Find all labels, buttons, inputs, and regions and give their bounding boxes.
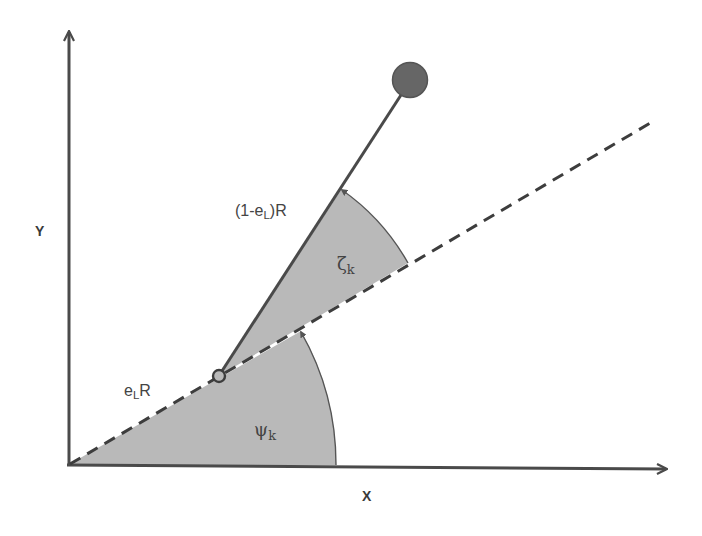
- hinge-offset-base: e: [124, 382, 133, 399]
- psi-symbol: ψ: [254, 419, 268, 440]
- hinge-offset-label: eLR: [124, 383, 151, 399]
- hinge-icon: [213, 370, 225, 382]
- x-axis-label: X: [362, 489, 371, 503]
- y-axis-label: Y: [35, 224, 44, 238]
- dashed-reference-line: [70, 122, 652, 464]
- link-length-suffix: )R: [270, 202, 287, 219]
- psi-subscript: k: [268, 428, 276, 443]
- zeta-angle-label: ζk: [337, 255, 355, 273]
- zeta-symbol: ζ: [337, 253, 347, 274]
- link-length-label: (1-eL)R: [235, 203, 287, 219]
- psi-angle-label: ψk: [254, 421, 276, 439]
- link-length-prefix: (1-e: [235, 202, 263, 219]
- ball-mass-icon: [393, 63, 428, 98]
- zeta-subscript: k: [347, 262, 355, 277]
- hinge-offset-suffix: R: [139, 382, 151, 399]
- x-axis: [67, 465, 666, 469]
- psi-angle-sector: [68, 331, 336, 465]
